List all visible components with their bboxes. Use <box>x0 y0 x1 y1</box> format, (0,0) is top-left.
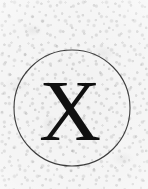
circled-x-svg: X <box>0 0 148 189</box>
letter-x-glyph: X <box>39 63 101 159</box>
ink-mark-layer: X <box>0 0 148 189</box>
circled-x-artwork: X <box>0 0 148 189</box>
